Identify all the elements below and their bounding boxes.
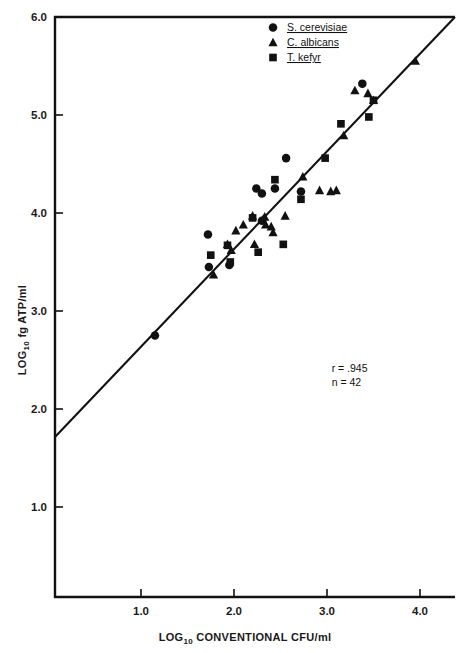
data-point xyxy=(321,154,329,162)
y-axis-tick-labels: 6.0 5.0 4.0 3.0 2.0 1.0 xyxy=(31,11,47,513)
y-tick-label: 4.0 xyxy=(31,207,47,219)
data-point xyxy=(226,258,234,266)
data-point xyxy=(224,242,232,250)
y-axis-title-subscript: 10 xyxy=(22,341,31,351)
x-axis-title-base: LOG xyxy=(159,631,184,643)
data-point xyxy=(363,89,372,98)
data-point xyxy=(271,176,279,184)
data-point xyxy=(281,211,290,220)
data-point xyxy=(151,331,160,340)
regression-line xyxy=(55,17,455,437)
data-point xyxy=(204,230,213,239)
data-point xyxy=(358,79,367,88)
y-tick-label: 2.0 xyxy=(31,403,47,415)
legend: S. cerevisiaeC. albicansT. kefyr xyxy=(268,21,347,63)
data-point xyxy=(350,86,359,95)
data-point xyxy=(258,189,267,198)
data-point xyxy=(339,131,348,140)
legend-marker-triangle xyxy=(268,38,277,47)
scatter-plot-figure: 6.0 5.0 4.0 3.0 2.0 1.0 1.0 2.0 3.0 4.0 … xyxy=(0,0,465,653)
y-axis-title-base: LOG xyxy=(16,350,28,375)
x-axis-tick-labels: 1.0 2.0 3.0 4.0 xyxy=(133,605,428,617)
legend-item: T. kefyr xyxy=(269,51,321,63)
legend-label: C. albicans xyxy=(287,36,339,48)
statistics-annotations: r = .945n = 42 xyxy=(332,362,368,389)
plot-frame xyxy=(55,17,455,597)
data-point xyxy=(231,226,240,235)
x-tick-label: 1.0 xyxy=(133,605,149,617)
data-point xyxy=(271,184,280,193)
plot-svg: 6.0 5.0 4.0 3.0 2.0 1.0 1.0 2.0 3.0 4.0 … xyxy=(0,0,465,653)
data-point xyxy=(279,241,287,249)
y-tick-label: 6.0 xyxy=(31,11,47,23)
x-axis-title-subscript: 10 xyxy=(183,637,193,646)
legend-marker-circle xyxy=(269,23,278,32)
data-point xyxy=(249,214,257,222)
data-point xyxy=(370,96,378,104)
data-point xyxy=(315,186,324,195)
sample-size-annotation: n = 42 xyxy=(332,376,362,388)
x-tick-label: 3.0 xyxy=(319,605,335,617)
legend-marker-square xyxy=(269,54,277,62)
x-axis-title: LOG10 CONVENTIONAL CFU/ml xyxy=(159,631,332,646)
x-tick-label: 2.0 xyxy=(226,605,242,617)
data-point xyxy=(332,186,341,195)
data-point xyxy=(205,263,214,272)
data-point xyxy=(297,195,305,203)
y-axis-title: LOG10 fg ATP/ml xyxy=(16,285,31,375)
correlation-annotation: r = .945 xyxy=(332,362,368,374)
legend-label: S. cerevisiae xyxy=(287,21,347,33)
legend-item: C. albicans xyxy=(268,36,339,48)
data-point xyxy=(207,251,215,259)
y-axis-title-rest: fg ATP/ml xyxy=(16,285,28,341)
data-point xyxy=(365,113,373,121)
y-tick-label: 1.0 xyxy=(31,501,47,513)
x-tick-label: 4.0 xyxy=(412,605,428,617)
data-point xyxy=(239,220,248,229)
data-point xyxy=(250,240,259,249)
data-point xyxy=(337,120,345,128)
legend-item: S. cerevisiae xyxy=(269,21,348,33)
data-point xyxy=(282,154,291,163)
data-point xyxy=(254,248,262,256)
data-point xyxy=(297,187,306,196)
y-tick-label: 3.0 xyxy=(31,305,47,317)
x-axis-title-rest: CONVENTIONAL CFU/ml xyxy=(193,631,331,643)
data-markers xyxy=(151,56,420,340)
y-tick-label: 5.0 xyxy=(31,109,47,121)
legend-label: T. kefyr xyxy=(287,51,321,63)
